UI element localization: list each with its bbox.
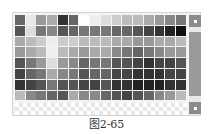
color-swatch[interactable] bbox=[69, 15, 79, 25]
color-swatch[interactable] bbox=[165, 69, 175, 79]
scroll-up-button[interactable] bbox=[189, 15, 201, 27]
color-swatch[interactable] bbox=[79, 80, 89, 90]
color-swatch[interactable] bbox=[69, 37, 79, 47]
color-swatch[interactable] bbox=[90, 26, 100, 36]
color-swatch[interactable] bbox=[155, 58, 165, 68]
color-swatch[interactable] bbox=[165, 37, 175, 47]
color-swatch[interactable] bbox=[36, 37, 46, 47]
color-swatch[interactable] bbox=[176, 37, 186, 47]
color-swatch[interactable] bbox=[133, 26, 143, 36]
color-swatch[interactable] bbox=[155, 15, 165, 25]
color-swatch[interactable] bbox=[144, 26, 154, 36]
transparent-swatch-row[interactable] bbox=[15, 103, 187, 115]
color-swatch[interactable] bbox=[112, 26, 122, 36]
color-swatch[interactable] bbox=[69, 80, 79, 90]
color-swatch[interactable] bbox=[79, 37, 89, 47]
color-swatch[interactable] bbox=[155, 69, 165, 79]
color-swatch[interactable] bbox=[144, 80, 154, 90]
color-swatch[interactable] bbox=[47, 91, 57, 101]
color-swatch[interactable] bbox=[112, 37, 122, 47]
color-swatch[interactable] bbox=[122, 26, 132, 36]
color-swatch[interactable] bbox=[144, 91, 154, 101]
color-swatch[interactable] bbox=[26, 69, 36, 79]
color-swatch[interactable] bbox=[176, 47, 186, 57]
color-swatch[interactable] bbox=[58, 91, 68, 101]
color-swatch[interactable] bbox=[176, 15, 186, 25]
color-swatch[interactable] bbox=[155, 80, 165, 90]
color-swatch[interactable] bbox=[90, 15, 100, 25]
color-swatch[interactable] bbox=[26, 91, 36, 101]
color-swatch[interactable] bbox=[90, 80, 100, 90]
color-swatch[interactable] bbox=[58, 47, 68, 57]
color-swatch[interactable] bbox=[79, 15, 89, 25]
color-swatch[interactable] bbox=[101, 80, 111, 90]
color-swatch[interactable] bbox=[176, 58, 186, 68]
color-swatch[interactable] bbox=[133, 37, 143, 47]
color-swatch[interactable] bbox=[36, 26, 46, 36]
color-swatch[interactable] bbox=[90, 47, 100, 57]
color-swatch[interactable] bbox=[26, 26, 36, 36]
color-swatch[interactable] bbox=[26, 37, 36, 47]
color-swatch[interactable] bbox=[133, 15, 143, 25]
color-swatch[interactable] bbox=[79, 47, 89, 57]
color-swatch[interactable] bbox=[47, 80, 57, 90]
color-swatch[interactable] bbox=[15, 80, 25, 90]
scroll-thumb[interactable] bbox=[189, 32, 201, 96]
color-swatch[interactable] bbox=[165, 47, 175, 57]
color-swatch[interactable] bbox=[58, 58, 68, 68]
color-swatch[interactable] bbox=[58, 37, 68, 47]
color-swatch[interactable] bbox=[26, 58, 36, 68]
color-swatch[interactable] bbox=[101, 58, 111, 68]
color-swatch[interactable] bbox=[165, 26, 175, 36]
color-swatch[interactable] bbox=[26, 80, 36, 90]
color-swatch[interactable] bbox=[155, 91, 165, 101]
color-swatch[interactable] bbox=[133, 80, 143, 90]
color-swatch[interactable] bbox=[122, 80, 132, 90]
color-swatch[interactable] bbox=[176, 91, 186, 101]
color-swatch[interactable] bbox=[79, 69, 89, 79]
color-swatch[interactable] bbox=[144, 47, 154, 57]
color-swatch[interactable] bbox=[15, 37, 25, 47]
color-swatch[interactable] bbox=[47, 69, 57, 79]
color-swatch[interactable] bbox=[155, 37, 165, 47]
color-swatch[interactable] bbox=[69, 69, 79, 79]
color-swatch[interactable] bbox=[90, 91, 100, 101]
color-swatch[interactable] bbox=[79, 58, 89, 68]
color-swatch[interactable] bbox=[144, 37, 154, 47]
color-swatch[interactable] bbox=[112, 15, 122, 25]
color-swatch[interactable] bbox=[133, 47, 143, 57]
color-swatch[interactable] bbox=[58, 15, 68, 25]
color-swatch[interactable] bbox=[79, 91, 89, 101]
color-swatch[interactable] bbox=[122, 69, 132, 79]
color-swatch[interactable] bbox=[36, 69, 46, 79]
color-swatch[interactable] bbox=[176, 26, 186, 36]
color-swatch[interactable] bbox=[58, 80, 68, 90]
color-swatch[interactable] bbox=[133, 58, 143, 68]
color-swatch[interactable] bbox=[79, 26, 89, 36]
color-swatch[interactable] bbox=[122, 91, 132, 101]
color-swatch[interactable] bbox=[101, 91, 111, 101]
color-swatch[interactable] bbox=[112, 91, 122, 101]
color-swatch[interactable] bbox=[176, 69, 186, 79]
vertical-scrollbar[interactable] bbox=[189, 14, 201, 115]
color-swatch[interactable] bbox=[47, 58, 57, 68]
color-swatch[interactable] bbox=[133, 69, 143, 79]
color-swatch[interactable] bbox=[36, 47, 46, 57]
color-swatch[interactable] bbox=[165, 91, 175, 101]
scroll-down-button[interactable] bbox=[189, 102, 201, 114]
color-swatch[interactable] bbox=[15, 91, 25, 101]
color-swatch[interactable] bbox=[36, 58, 46, 68]
color-swatch[interactable] bbox=[58, 26, 68, 36]
color-swatch[interactable] bbox=[155, 26, 165, 36]
color-swatch[interactable] bbox=[36, 91, 46, 101]
color-swatch[interactable] bbox=[101, 69, 111, 79]
color-swatch[interactable] bbox=[15, 15, 25, 25]
color-swatch[interactable] bbox=[69, 47, 79, 57]
color-swatch[interactable] bbox=[122, 58, 132, 68]
color-swatch[interactable] bbox=[26, 15, 36, 25]
color-swatch[interactable] bbox=[101, 37, 111, 47]
color-swatch[interactable] bbox=[47, 37, 57, 47]
color-swatch[interactable] bbox=[101, 15, 111, 25]
color-swatch[interactable] bbox=[58, 69, 68, 79]
color-swatch[interactable] bbox=[90, 58, 100, 68]
